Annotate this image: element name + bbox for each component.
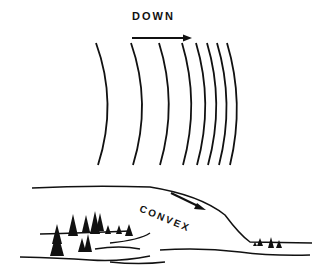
diagram-canvas bbox=[0, 0, 333, 278]
contour-lines bbox=[96, 43, 237, 165]
down-label: DOWN bbox=[132, 10, 175, 22]
down-arrow-icon bbox=[132, 35, 192, 42]
convex-slope-diagram: DOWN CONVEX bbox=[0, 0, 333, 278]
